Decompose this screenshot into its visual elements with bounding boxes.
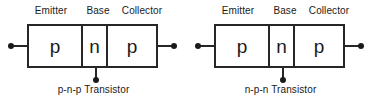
segment-label-base: Base bbox=[82, 4, 114, 18]
transistor-caption-pnp: p-n-p Transistor bbox=[0, 83, 187, 97]
emitter-terminal-dot bbox=[195, 43, 201, 49]
collector-terminal-dot bbox=[358, 43, 364, 49]
transistor-npn: Emitter Base Collector p n p n-p-n Trans… bbox=[187, 0, 374, 101]
transistor-pnp: Emitter Base Collector p n p p-n-p Trans… bbox=[0, 0, 187, 101]
segment-base: n bbox=[270, 26, 295, 66]
segment-collector: p bbox=[108, 26, 156, 66]
segment-label-collector: Collector bbox=[114, 4, 170, 18]
transistor-caption-npn: n-p-n Transistor bbox=[187, 83, 374, 97]
segment-emitter: p bbox=[29, 26, 83, 66]
segment-label-collector: Collector bbox=[301, 4, 357, 18]
transistor-diagram-figure: Emitter Base Collector p n p p-n-p Trans… bbox=[0, 0, 374, 101]
segment-label-emitter: Emitter bbox=[22, 4, 80, 18]
segment-emitter: p bbox=[216, 26, 270, 66]
segment-label-emitter: Emitter bbox=[209, 4, 267, 18]
segment-base: n bbox=[83, 26, 108, 66]
transistor-body-npn: p n p bbox=[214, 24, 345, 68]
segment-label-base: Base bbox=[269, 4, 301, 18]
segment-collector: p bbox=[295, 26, 343, 66]
transistor-body-pnp: p n p bbox=[27, 24, 158, 68]
segment-labels-pnp: Emitter Base Collector bbox=[22, 4, 170, 20]
segment-labels-npn: Emitter Base Collector bbox=[209, 4, 357, 20]
collector-terminal-dot bbox=[171, 43, 177, 49]
emitter-terminal-dot bbox=[8, 43, 14, 49]
